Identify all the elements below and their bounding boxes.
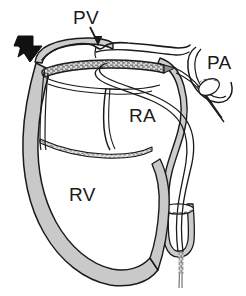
label-pulmonary-valve: PV	[73, 8, 99, 27]
heart-anatomy-illustration	[0, 0, 246, 296]
heart-diagram-figure: PV PA RA RV	[0, 0, 246, 296]
annulus-ring-band	[40, 139, 152, 158]
label-right-atrium: RA	[129, 106, 156, 125]
ventricular-septum-band	[150, 159, 169, 270]
label-pulmonary-artery: PA	[207, 53, 232, 72]
right-ventricle-myocardium	[23, 63, 158, 286]
deployed-pulmonary-stent	[42, 60, 175, 77]
label-right-ventricle: RV	[69, 185, 96, 204]
